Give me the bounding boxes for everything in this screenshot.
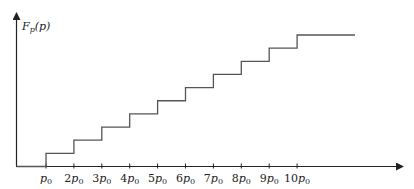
step-function-chart: p02p03p04p05p06p07p08p09p010p0 Fp(p)	[0, 0, 414, 189]
x-tick-label: 3p0	[92, 172, 111, 186]
x-tick-label: 8p0	[232, 172, 251, 186]
step-line	[17, 35, 356, 167]
x-tick-label: 10p0	[284, 172, 310, 186]
x-tick-label: 4p0	[120, 172, 139, 186]
x-tick-labels: p02p03p04p05p06p07p08p09p010p0	[40, 172, 310, 186]
x-tick-label: 6p0	[176, 172, 195, 186]
y-axis-label: Fp(p)	[21, 20, 50, 34]
x-tick-label: 2p0	[64, 172, 83, 186]
x-tick-label: 7p0	[204, 172, 223, 186]
x-tick-label: 9p0	[260, 172, 279, 186]
x-tick-label: p0	[40, 172, 52, 186]
x-tick-label: 5p0	[148, 172, 167, 186]
